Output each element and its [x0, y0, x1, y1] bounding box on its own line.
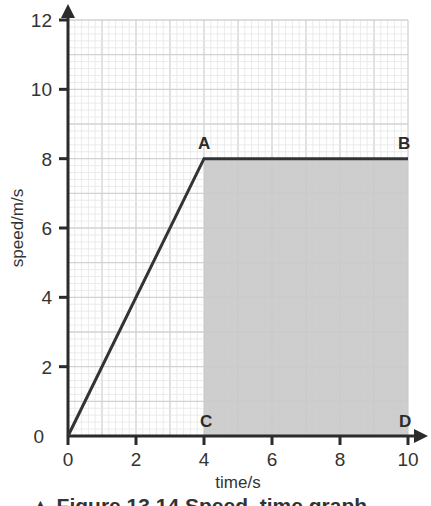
y-axis-title: speed/m/s: [8, 189, 27, 267]
x-tick-label: 2: [131, 449, 142, 470]
x-tick-label: 8: [335, 449, 346, 470]
x-axis-title: time/s: [215, 473, 260, 492]
x-tick-label: 10: [397, 449, 418, 470]
point-label-b: B: [398, 134, 410, 153]
speed-time-chart: 0246810024681012 time/s speed/m/s A B C …: [0, 0, 431, 506]
y-tick-label: 8: [41, 149, 52, 170]
y-tick-label: 12: [31, 10, 52, 31]
point-label-a: A: [198, 134, 210, 153]
x-tick-label: 4: [199, 449, 210, 470]
shaded-area: [204, 159, 408, 436]
x-tick-label: 0: [63, 449, 74, 470]
y-tick-label: 4: [41, 287, 52, 308]
y-tick-label: 6: [41, 218, 52, 239]
point-label-c: C: [200, 412, 212, 431]
figure-caption: ▲ Figure 13.14 Speed–time graph: [30, 494, 431, 506]
point-label-d: D: [399, 412, 411, 431]
y-tick-label: 10: [31, 79, 52, 100]
y-tick-label: 2: [41, 357, 52, 378]
y-tick-label: 0: [33, 426, 44, 447]
x-tick-label: 6: [267, 449, 278, 470]
